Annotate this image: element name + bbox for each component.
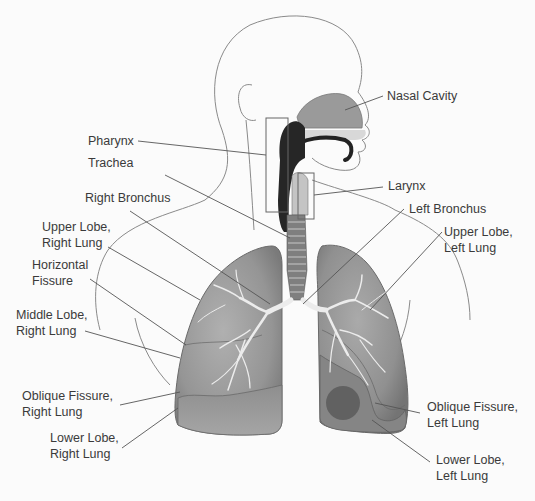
label-line: Middle Lobe,: [16, 308, 88, 324]
nasal-cavity-shape: [297, 94, 362, 128]
label-oblique-fissure-left: Oblique Fissure, Left Lung: [427, 400, 518, 431]
label-larynx: Larynx: [388, 179, 426, 195]
label-lower-lobe-left: Lower Lobe, Left Lung: [436, 453, 505, 484]
label-lower-lobe-right: Lower Lobe, Right Lung: [50, 431, 119, 462]
label-line: Left Lung: [427, 416, 518, 432]
leader-upper-lobe-left: [370, 232, 442, 310]
label-upper-lobe-left: Upper Lobe, Left Lung: [444, 225, 513, 256]
label-nasal-cavity: Nasal Cavity: [387, 89, 457, 105]
label-line: Left Bronchus: [409, 202, 486, 218]
label-line: Horizontal: [32, 258, 88, 274]
leader-upper-lobe-right: [108, 247, 200, 300]
label-line: Left Lung: [436, 469, 505, 485]
leader-lower-lobe-right: [122, 408, 178, 448]
label-line: Left Lung: [444, 241, 513, 257]
neck-inner-left: [246, 120, 254, 230]
leader-trachea: [165, 175, 290, 238]
label-middle-lobe-right: Middle Lobe, Right Lung: [16, 308, 88, 339]
cardiac-impression: [326, 386, 360, 420]
label-line: Upper Lobe,: [444, 225, 513, 241]
label-oblique-fissure-right: Oblique Fissure, Right Lung: [22, 389, 113, 420]
label-line: Pharynx: [88, 134, 134, 150]
leader-middle-lobe-right: [85, 331, 180, 358]
label-upper-lobe-right: Upper Lobe, Right Lung: [42, 220, 111, 251]
label-line: Fissure: [32, 274, 88, 290]
label-line: Oblique Fissure,: [427, 400, 518, 416]
label-line: Right Lung: [50, 447, 119, 463]
label-line: Right Lung: [42, 236, 111, 252]
label-horizontal-fissure: Horizontal Fissure: [32, 258, 88, 289]
leader-oblique-fissure-right: [120, 392, 180, 405]
label-pharynx: Pharynx: [88, 134, 134, 150]
label-line: Trachea: [88, 156, 133, 172]
label-trachea: Trachea: [88, 156, 133, 172]
leader-horizontal-fissure: [90, 279, 186, 345]
label-line: Nasal Cavity: [387, 89, 457, 105]
label-left-bronchus: Left Bronchus: [409, 202, 486, 218]
label-right-bronchus: Right Bronchus: [85, 191, 170, 207]
label-line: Right Lung: [16, 324, 88, 340]
leader-larynx: [314, 187, 383, 195]
label-line: Right Bronchus: [85, 191, 170, 207]
larynx-shape: [292, 173, 308, 215]
label-line: Larynx: [388, 179, 426, 195]
label-line: Upper Lobe,: [42, 220, 111, 236]
label-line: Right Lung: [22, 405, 113, 421]
ear-outline: [239, 85, 257, 121]
label-line: Oblique Fissure,: [22, 389, 113, 405]
label-line: Lower Lobe,: [436, 453, 505, 469]
leader-pharynx: [138, 141, 266, 155]
label-line: Lower Lobe,: [50, 431, 119, 447]
body-left-inner: [135, 318, 170, 385]
